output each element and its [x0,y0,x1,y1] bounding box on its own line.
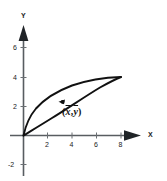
y-axis-label: Y [21,12,26,19]
x-tick-label-2: 2 [45,141,49,148]
x-tick-label-4: 4 [70,141,74,148]
centroid-label: (x,y) [62,107,82,117]
x-tick-label-8: 8 [119,141,123,148]
centroid-point-icon [61,100,65,104]
plot-canvas [0,0,167,181]
x-axis-arrowhead [124,130,141,141]
y-tick-label-minus-2: -2 [8,161,14,168]
centroid-close-paren: ) [78,106,82,117]
x-tick-label-6: 6 [94,141,98,148]
y-tick-label-4: 4 [13,74,17,81]
y-tick-label-6: 6 [13,44,17,51]
centroid-region-figure: 6 4 2 -2 2 4 6 8 Y X (x,y) [0,0,167,181]
y-axis-arrowhead [19,25,29,41]
y-tick-label-2: 2 [13,103,17,110]
x-axis-label: X [148,131,153,138]
